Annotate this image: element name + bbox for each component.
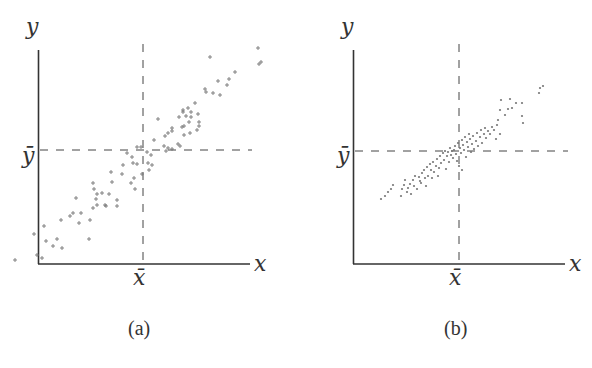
y-axis-label: y [25, 14, 39, 39]
x-mean-label: x̄ [133, 265, 146, 290]
scatter-points-a [13, 46, 263, 262]
scatter-points-b [380, 85, 544, 200]
y-mean-label: ȳ [21, 143, 35, 168]
panel-caption-a: (a) [128, 317, 150, 340]
scatter-figure: y ȳ x x̄ (a) [0, 0, 592, 368]
y-axis-label: y [340, 14, 354, 39]
panel-caption-b: (b) [444, 317, 467, 340]
x-mean-label: x̄ [449, 265, 462, 290]
x-axis-label: x [569, 251, 582, 276]
y-mean-label: ȳ [336, 143, 350, 168]
x-axis-label: x [254, 251, 267, 276]
panel-a: y ȳ x x̄ (a) [13, 14, 267, 340]
panel-b: y ȳ x x̄ (b) [336, 14, 582, 340]
